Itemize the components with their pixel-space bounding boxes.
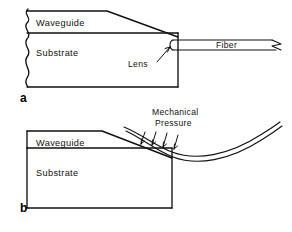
pressure-arrow-4-head xyxy=(174,144,178,149)
panel-b-group: Waveguide Substrate Mechanical Pressure … xyxy=(20,107,282,215)
panel-a-group: Waveguide Substrate Lens Fiber a xyxy=(20,9,281,105)
panel-a-letter: a xyxy=(20,91,27,105)
panel-b-pressure-label-line2: Pressure xyxy=(155,118,192,128)
panel-b-letter: b xyxy=(20,201,27,215)
panel-a-substrate-label: Substrate xyxy=(36,48,78,58)
figure-root: Waveguide Substrate Lens Fiber a xyxy=(0,0,292,232)
waveguide-fiber-coupling-diagram: Waveguide Substrate Lens Fiber a xyxy=(0,0,292,232)
panel-a-waveguide-label: Waveguide xyxy=(36,18,85,28)
panel-b-waveguide-label: Waveguide xyxy=(36,138,85,148)
panel-a-left-break-edge xyxy=(26,9,29,87)
panel-a-lens-leader-line xyxy=(157,47,170,62)
panel-b-pressure-label-line1: Mechanical xyxy=(152,107,198,117)
panel-a-fiber-label: Fiber xyxy=(216,40,237,50)
pressure-arrow-3-head xyxy=(163,142,167,147)
panel-b-curved-fiber-top-wall xyxy=(124,122,280,156)
panel-b-substrate-label: Substrate xyxy=(36,168,78,178)
panel-a-fiber-lens-tip xyxy=(170,40,173,50)
panel-a-fiber-break-edge xyxy=(272,40,281,50)
panel-a-lens-label: Lens xyxy=(128,59,148,69)
